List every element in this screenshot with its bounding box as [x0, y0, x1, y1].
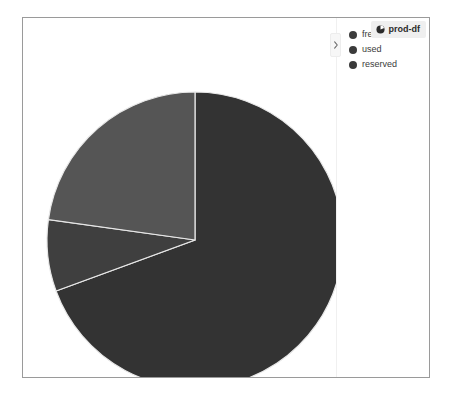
pie-chart[interactable] [23, 18, 336, 377]
pie-chart-area [23, 18, 336, 377]
legend-swatch-icon [349, 31, 357, 39]
legend-item-label: used [362, 45, 382, 54]
dataset-badge[interactable]: prod-df [371, 21, 427, 38]
pie-slice-reserved[interactable] [48, 92, 195, 240]
pie-chart-icon [376, 25, 385, 34]
legend-swatch-icon [349, 46, 357, 54]
chevron-right-icon [333, 41, 339, 49]
legend-item-reserved[interactable]: reserved [349, 60, 427, 69]
legend-item-used[interactable]: used [349, 45, 427, 54]
legend-panel: freeusedreserved [336, 18, 429, 377]
legend-item-label: reserved [362, 60, 397, 69]
dataset-badge-label: prod-df [389, 25, 421, 34]
chart-panel: prod-df freeusedreserved [22, 17, 430, 378]
legend-swatch-icon [349, 61, 357, 69]
screenshot-viewport: prod-df freeusedreserved [0, 0, 450, 395]
pie-slice-group [47, 92, 336, 377]
legend-collapse-toggle[interactable] [330, 33, 341, 57]
